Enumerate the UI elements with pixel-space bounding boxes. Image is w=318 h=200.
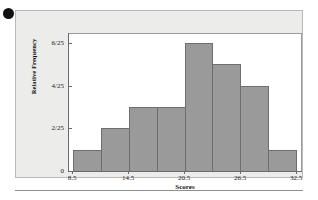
figure-card: Relative Frequency 02/254/256/25 8.514.5…	[15, 10, 303, 178]
y-axis-tick-label: 4/25	[34, 82, 64, 90]
bullet-marker-icon	[3, 8, 14, 19]
x-axis-tick-label: 20.5	[178, 174, 190, 182]
histogram-bar	[212, 64, 241, 171]
x-axis-line	[68, 171, 302, 172]
x-axis-tick-label: 32.5	[290, 174, 302, 182]
y-axis-tick-mark	[68, 43, 72, 44]
plot-area	[69, 34, 301, 171]
y-axis-tick-label: 2/25	[34, 124, 64, 132]
histogram-bar	[240, 86, 269, 171]
y-axis-tick-mark	[68, 128, 72, 129]
histogram-bar	[73, 150, 102, 171]
histogram-bars	[73, 43, 297, 171]
x-axis-tick-mark	[184, 171, 185, 174]
x-axis-tick-label: 8.5	[68, 174, 77, 182]
bottom-divider	[15, 190, 303, 191]
y-axis-line	[68, 33, 69, 172]
histogram-bar	[157, 107, 186, 171]
y-axis-tick-label: 0	[34, 167, 64, 175]
x-axis-tick-mark	[296, 171, 297, 174]
plot-frame	[68, 33, 302, 172]
x-axis-tick-mark	[72, 171, 73, 174]
histogram-bar	[101, 128, 130, 171]
histogram-bar	[268, 150, 297, 171]
histogram-bar	[185, 43, 214, 171]
histogram-bar	[129, 107, 158, 171]
x-axis-tick-mark	[128, 171, 129, 174]
x-axis-tick-mark	[240, 171, 241, 174]
x-axis-tick-label: 26.5	[234, 174, 246, 182]
x-axis-tick-label: 14.5	[122, 174, 134, 182]
y-axis-tick-label: 6/25	[34, 39, 64, 47]
y-axis-tick-mark	[68, 86, 72, 87]
y-axis-tick-labels: 02/254/256/25	[34, 11, 64, 179]
